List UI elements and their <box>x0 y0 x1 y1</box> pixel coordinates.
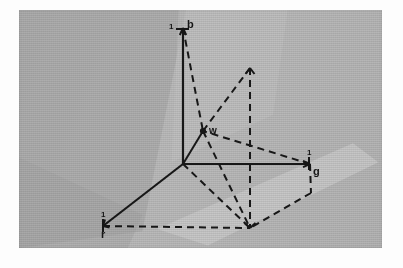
dashed-green-to-white <box>203 131 310 164</box>
origin-to-white-segment <box>183 131 203 164</box>
dashed-origin-to-bottom <box>183 164 250 228</box>
dashed-blue-to-white <box>183 28 203 131</box>
green-axis-tick-label: 1 <box>307 149 311 157</box>
red-axis-line <box>103 164 183 226</box>
red-axis-label: r <box>101 229 105 240</box>
red-axis-tick-label: 1 <box>101 211 105 219</box>
dashed-red-to-bottom <box>103 226 250 228</box>
white-point-label: w <box>209 126 217 136</box>
white-point-marker <box>200 128 206 134</box>
blue-axis-label: b <box>187 19 194 30</box>
green-axis-label: g <box>313 166 320 177</box>
dashed-white-to-apex <box>203 68 250 131</box>
dashed-right-to-bottom <box>250 193 311 228</box>
blue-axis-tick-label: 1 <box>169 23 173 31</box>
diagram-vector-layer <box>19 10 382 248</box>
dashed-white-to-bottom <box>203 131 250 228</box>
dashed-green-down <box>310 164 311 193</box>
scanned-figure-plate: b 1 g 1 r 1 w <box>19 10 382 248</box>
figure-page: b 1 g 1 r 1 w <box>0 0 403 268</box>
